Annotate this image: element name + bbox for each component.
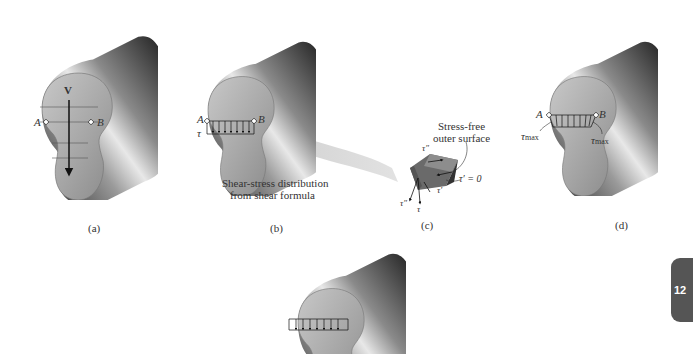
panel-d-caption: (d) (615, 219, 628, 232)
panel-a-caption: (a) (88, 222, 100, 235)
panel-c-note-line2: outer surface (433, 132, 490, 145)
panel-d-label-b: B (599, 108, 606, 120)
chapter-tab: 12 (671, 258, 693, 322)
panel-a-label-b: B (97, 116, 104, 128)
max-subscript: max (595, 137, 609, 146)
panel-e-beam (298, 254, 413, 354)
panel-c-label-tau-double-prime-top: τ″ (422, 143, 429, 153)
panel-d-label-a: A (536, 108, 543, 120)
panel-b-label-a: A (197, 113, 204, 125)
panel-b-description-line2: from shear formula (230, 189, 315, 202)
panel-d-label-tau-max-right: τmax (591, 134, 609, 146)
panel-b-caption: (b) (270, 222, 283, 235)
panel-c-label-tau-double-prime-bottom: τ″ (400, 198, 407, 208)
panel-c-caption: (c) (421, 219, 433, 232)
panel-a-label-v: V (64, 84, 72, 96)
panel-c-label-tau: τ (417, 204, 420, 214)
panel-b-label-tau: τ (197, 127, 201, 139)
panel-b-label-b: B (258, 113, 265, 125)
panel-c-label-tau-prime: τ′ (437, 185, 442, 195)
panel-a-label-a: A (34, 116, 41, 128)
panel-c-label-tau-prime-zero: τ′ = 0 (459, 173, 482, 184)
panel-d-beam (550, 42, 665, 202)
chapter-number: 12 (674, 284, 686, 296)
max-subscript: max (525, 133, 539, 142)
panel-d-label-tau-max-left: τmax (521, 130, 539, 142)
